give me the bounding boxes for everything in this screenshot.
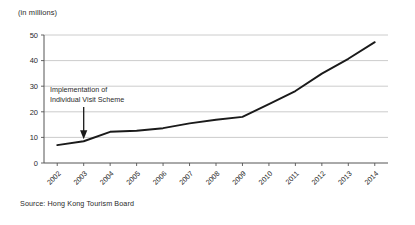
y-tick-label: 10: [30, 133, 38, 142]
x-tick-label: 2008: [204, 169, 222, 187]
x-tick-label: 2009: [230, 169, 248, 187]
x-tick-labels: 2002200320042005200620072008200920102011…: [45, 163, 380, 187]
x-tick-label: 2010: [257, 169, 275, 187]
x-tick-label: 2013: [336, 169, 354, 187]
tourism-arrivals-chart: (in millions) 01020304050 20022003200420…: [0, 0, 415, 225]
x-tick-label: 2003: [71, 169, 89, 187]
source-note: Source: Hong Kong Tourism Board: [20, 199, 134, 208]
annotation-line-2: Individual Visit Scheme: [50, 95, 124, 104]
x-tick-label: 2006: [151, 169, 169, 187]
x-tick-label: 2002: [45, 169, 63, 187]
y-tick-label: 40: [30, 56, 38, 65]
x-tick-label: 2005: [124, 169, 142, 187]
y-axis-group: 01020304050: [30, 31, 44, 168]
y-tick-label: 30: [30, 82, 38, 91]
y-tick-label: 50: [30, 31, 38, 40]
y-tick-label: 0: [34, 159, 38, 168]
x-tick-label: 2004: [98, 169, 116, 187]
y-tick-label: 20: [30, 108, 38, 117]
chart-plot-area: 01020304050 2002200320042005200620072008…: [0, 0, 415, 225]
annotation-line-1: Implementation of: [50, 85, 107, 94]
x-tick-label: 2011: [283, 169, 300, 186]
x-axis-group: 2002200320042005200620072008200920102011…: [44, 163, 388, 187]
y-tick-labels: 01020304050: [30, 31, 44, 168]
x-tick-label: 2012: [310, 169, 328, 187]
x-tick-label: 2014: [363, 169, 381, 187]
x-tick-label: 2007: [177, 169, 195, 187]
annotation-arrow-head-icon: [80, 130, 87, 139]
